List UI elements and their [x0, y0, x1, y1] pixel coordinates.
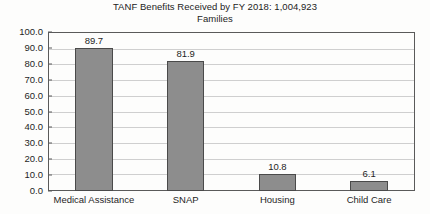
y-tick-label: 50.0 [25, 107, 44, 117]
bar-value-label: 10.8 [232, 162, 324, 172]
bar[interactable] [259, 174, 297, 191]
y-tick-label: 20.0 [25, 154, 44, 164]
y-tick-label: 90.0 [25, 43, 44, 53]
x-tick-label: SNAP [140, 194, 232, 205]
bar[interactable] [350, 181, 388, 191]
y-tick-label: 60.0 [25, 91, 44, 101]
bar-value-label: 6.1 [323, 169, 415, 179]
bar-chart-figure: TANF Benefits Received by FY 2018: 1,004… [0, 0, 430, 214]
y-tick-label: 10.0 [25, 170, 44, 180]
bars-layer: 89.7 81.9 10.8 6.1 [48, 32, 415, 191]
bar-slot: 6.1 [323, 32, 415, 191]
y-tick-label: 100.0 [19, 27, 43, 37]
y-tick-label: 40.0 [25, 122, 44, 132]
y-tick-label: 30.0 [25, 138, 44, 148]
y-axis-tick-labels: 100.0 90.0 80.0 70.0 60.0 50.0 40.0 30.0… [0, 32, 46, 191]
x-axis-category-labels: Medical Assistance SNAP Housing Child Ca… [48, 194, 415, 205]
bar[interactable] [167, 61, 205, 191]
y-tick-label: 70.0 [25, 75, 44, 85]
bar-slot: 10.8 [232, 32, 324, 191]
chart-title: TANF Benefits Received by FY 2018: 1,004… [0, 1, 430, 24]
y-tick-label: 0.0 [30, 186, 43, 196]
y-tick-label: 80.0 [25, 59, 44, 69]
x-tick-label: Child Care [323, 194, 415, 205]
x-tick-label: Housing [232, 194, 324, 205]
bar-slot: 89.7 [48, 32, 140, 191]
bar-value-label: 81.9 [140, 49, 232, 59]
x-tick-label: Medical Assistance [48, 194, 140, 205]
chart-title-line-2: Families [0, 13, 430, 25]
bar-slot: 81.9 [140, 32, 232, 191]
bar[interactable] [75, 48, 113, 191]
chart-title-line-1: TANF Benefits Received by FY 2018: 1,004… [0, 1, 430, 13]
bar-value-label: 89.7 [48, 36, 140, 46]
